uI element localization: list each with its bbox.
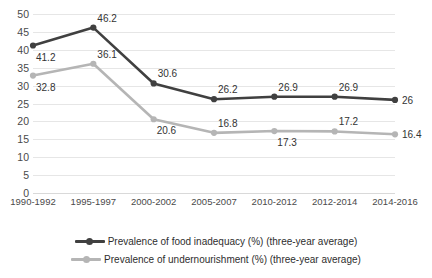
data-point-label: 26.9 bbox=[339, 81, 358, 92]
legend-marker-icon bbox=[75, 237, 105, 247]
data-point-label: 26.9 bbox=[278, 81, 297, 92]
data-point-label: 16.8 bbox=[218, 117, 237, 128]
data-point bbox=[271, 128, 277, 134]
legend-label: Prevalence of food inadequacy (%) (three… bbox=[108, 236, 358, 247]
data-point-label: 16.4 bbox=[402, 129, 421, 140]
data-point-label: 17.3 bbox=[277, 137, 296, 148]
x-axis-tick-label: 2014-2016 bbox=[372, 196, 417, 207]
y-axis-tick-label: 20 bbox=[0, 115, 29, 127]
line-chart: 50454035302520151050 41.246.230.626.226.… bbox=[0, 0, 432, 278]
chart-legend: Prevalence of food inadequacy (%) (three… bbox=[0, 236, 432, 265]
data-point bbox=[271, 94, 277, 100]
x-axis-labels: 1990-19921995-19972000-20022005-20072010… bbox=[33, 196, 395, 216]
data-point bbox=[392, 97, 398, 103]
legend-marker-icon bbox=[71, 255, 101, 265]
data-point-label: 36.1 bbox=[97, 48, 116, 59]
data-point-label: 30.6 bbox=[158, 68, 177, 79]
y-axis-tick-label: 45 bbox=[0, 26, 29, 38]
data-point-label: 32.8 bbox=[36, 81, 55, 92]
data-point bbox=[211, 96, 217, 102]
legend-label: Prevalence of undernourishment (%) (thre… bbox=[104, 254, 361, 265]
y-axis-tick-label: 25 bbox=[0, 98, 29, 110]
x-axis-tick-label: 2005-2007 bbox=[191, 196, 236, 207]
legend-dot bbox=[83, 256, 90, 263]
plot-area: 41.246.230.626.226.926.92632.836.120.616… bbox=[33, 14, 395, 193]
y-axis-tick-label: 40 bbox=[0, 44, 29, 56]
legend-item[interactable]: Prevalence of food inadequacy (%) (three… bbox=[75, 236, 358, 247]
y-axis-tick-label: 10 bbox=[0, 151, 29, 163]
series-layer bbox=[33, 14, 395, 193]
data-point bbox=[211, 130, 217, 136]
y-axis-tick-label: 5 bbox=[0, 169, 29, 181]
data-point-label: 46.2 bbox=[97, 12, 116, 23]
data-point bbox=[332, 94, 338, 100]
data-point bbox=[30, 42, 36, 48]
data-point-label: 17.2 bbox=[339, 116, 358, 127]
data-point-label: 26.2 bbox=[218, 84, 237, 95]
y-axis-tick-label: 50 bbox=[0, 8, 29, 20]
gridline bbox=[33, 193, 395, 194]
x-axis-tick-label: 2010-2012 bbox=[252, 196, 297, 207]
x-axis-tick-label: 2012-2014 bbox=[312, 196, 357, 207]
data-point bbox=[332, 128, 338, 134]
x-axis-tick-label: 2000-2002 bbox=[131, 196, 176, 207]
data-point-label: 20.6 bbox=[157, 125, 176, 136]
data-point bbox=[90, 25, 96, 31]
y-axis-labels: 50454035302520151050 bbox=[0, 14, 29, 193]
data-point-label: 41.2 bbox=[36, 51, 55, 62]
x-axis-tick-label: 1990-1992 bbox=[10, 196, 55, 207]
data-point bbox=[151, 80, 157, 86]
data-point bbox=[151, 116, 157, 122]
y-axis-tick-label: 35 bbox=[0, 62, 29, 74]
x-axis-tick-label: 1995-1997 bbox=[71, 196, 116, 207]
y-axis-tick-label: 30 bbox=[0, 80, 29, 92]
data-point bbox=[392, 131, 398, 137]
data-point bbox=[90, 61, 96, 67]
legend-item[interactable]: Prevalence of undernourishment (%) (thre… bbox=[71, 254, 361, 265]
legend-dot bbox=[86, 238, 93, 245]
y-axis-tick-label: 15 bbox=[0, 133, 29, 145]
data-point bbox=[30, 72, 36, 78]
data-point-label: 26 bbox=[402, 94, 413, 105]
